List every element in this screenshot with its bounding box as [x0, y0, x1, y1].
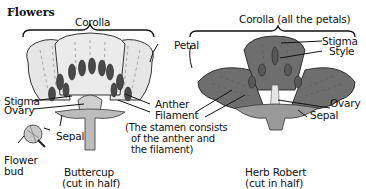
stamen-note-line-3: the filament) [131, 144, 193, 155]
stamen-note-line-1: (The stamen consists [125, 122, 228, 133]
buttercup-corolla-label: Corolla [75, 17, 110, 28]
petal-label: Petal [174, 40, 199, 51]
herb-sepals-stem [235, 104, 318, 130]
buttercup-ovary-label: Ovary [4, 105, 34, 116]
herb-ovary-label: Ovary [330, 98, 360, 109]
flower-diagram: Flowers Corolla Petal Stigma Ovary Sepal… [0, 0, 366, 189]
diagram-title: Flowers [7, 6, 55, 19]
herb-style-label: Style [329, 46, 354, 57]
flower-bud-label-2: bud [4, 166, 23, 177]
diagram-artwork [0, 0, 366, 189]
flower-bud [24, 125, 45, 147]
filament-label: Filament [155, 110, 198, 121]
buttercup-sepal-label: Sepal [56, 131, 84, 142]
buttercup-caption-2: (cut in half) [62, 178, 120, 189]
herb-sepal-label: Sepal [310, 110, 338, 121]
herb-caption-2: (cut in half) [245, 178, 303, 189]
herb-corolla-label: Corolla (all the petals) [239, 14, 351, 25]
stamen-note-line-2: of the anther and [131, 133, 215, 144]
